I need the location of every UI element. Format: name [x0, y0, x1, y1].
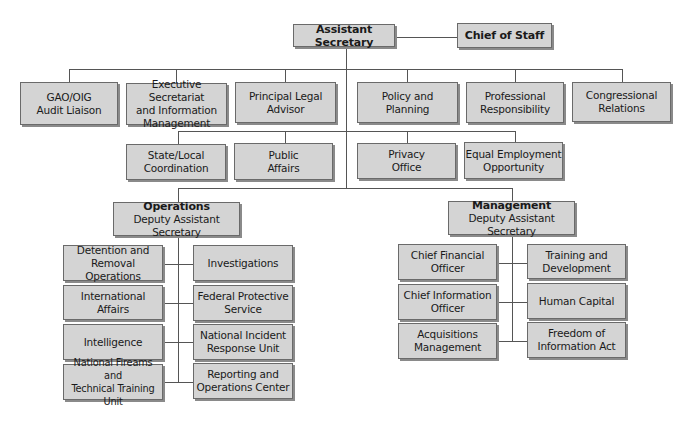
operations-subtitle: Deputy Assistant Secretary	[114, 213, 239, 239]
box-label: Equal Employment Opportunity	[466, 148, 562, 174]
connector-mgmt-spine	[512, 235, 513, 342]
connector-tier1-5	[515, 69, 516, 82]
box-label: Reporting and Operations Center	[196, 368, 289, 394]
chief-of-staff-label: Chief of Staff	[465, 29, 544, 42]
principal-legal-advisor-box: Principal Legal Advisor	[235, 82, 336, 123]
box-label: Professional Responsibility	[480, 90, 550, 116]
box-label: Acquisitions Management	[414, 328, 481, 354]
connector-tier2-1	[178, 131, 179, 144]
management-subtitle: Deputy Assistant Secretary	[449, 212, 574, 238]
assistant-secretary-box: Assistant Secretary	[293, 24, 395, 47]
national-incident-response-unit-box: National Incident Response Unit	[193, 324, 293, 360]
box-label: Intelligence	[84, 336, 143, 349]
connector-ops-row3	[163, 342, 193, 343]
intelligence-box: Intelligence	[63, 324, 163, 360]
box-label: Investigations	[208, 257, 279, 270]
assistant-secretary-label: Assistant Secretary	[294, 23, 394, 49]
box-label: Detention and Removal Operations	[64, 244, 162, 283]
connector-mgmt-row1	[497, 263, 527, 264]
box-label: Principal Legal Advisor	[249, 90, 322, 116]
reporting-operations-center-box: Reporting and Operations Center	[193, 363, 293, 399]
international-affairs-box: International Affairs	[63, 285, 163, 320]
detention-removal-operations-box: Detention and Removal Operations	[63, 245, 163, 281]
box-label: Chief Information Officer	[404, 289, 492, 315]
box-label: Human Capital	[539, 295, 614, 308]
training-development-box: Training and Development	[527, 244, 626, 279]
box-label: National Incident Response Unit	[200, 329, 286, 355]
box-label: Chief Financial Officer	[411, 249, 484, 275]
box-label: International Affairs	[64, 290, 162, 316]
equal-employment-opportunity-box: Equal Employment Opportunity	[464, 142, 563, 179]
connector-tier2-2	[285, 131, 286, 143]
congressional-relations-box: Congressional Relations	[572, 82, 671, 122]
public-affairs-box: Public Affairs	[234, 143, 333, 180]
executive-secretariat-box: Executive Secretariat and Information Ma…	[126, 83, 227, 125]
org-chart: Assistant Secretary Chief of Staff GAO/O…	[0, 0, 697, 424]
chief-of-staff-box: Chief of Staff	[457, 23, 552, 48]
connector-mgmt-row2	[497, 302, 527, 303]
human-capital-box: Human Capital	[527, 283, 626, 319]
chief-financial-officer-box: Chief Financial Officer	[398, 244, 497, 280]
connector-tier1-4	[407, 69, 408, 82]
connector-mgmt-row3	[497, 341, 527, 342]
box-label: GAO/OIG Audit Liaison	[37, 91, 102, 117]
state-local-coordination-box: State/Local Coordination	[126, 144, 226, 180]
connector-top-staff	[395, 37, 457, 38]
management-title: Management	[472, 199, 551, 212]
box-label: Policy and Planning	[382, 90, 433, 116]
box-label: Congressional Relations	[586, 89, 657, 115]
operations-title: Operations	[143, 200, 210, 213]
connector-ops-spine	[178, 236, 179, 383]
box-label: Privacy Office	[388, 148, 425, 174]
connector-tier1-6	[622, 69, 623, 82]
professional-responsibility-box: Professional Responsibility	[466, 82, 564, 123]
connector-tier1-3	[285, 69, 286, 82]
investigations-box: Investigations	[193, 245, 293, 281]
freedom-of-information-act-box: Freedom of Information Act	[527, 322, 626, 358]
acquisitions-management-box: Acquisitions Management	[398, 323, 497, 359]
connector-tier1-bar	[69, 69, 622, 70]
management-deputy-box: Management Deputy Assistant Secretary	[448, 201, 575, 235]
national-firearms-training-box: National Fireams and Technical Training …	[63, 364, 163, 400]
privacy-office-box: Privacy Office	[357, 143, 456, 179]
policy-and-planning-box: Policy and Planning	[357, 82, 458, 123]
connector-deputy-bar	[178, 188, 513, 189]
box-label: Public Affairs	[268, 149, 300, 175]
box-label: Executive Secretariat and Information Ma…	[127, 78, 226, 130]
connector-ops-row1	[163, 264, 193, 265]
chief-information-officer-box: Chief Information Officer	[398, 284, 497, 320]
gao-oig-audit-liaison-box: GAO/OIG Audit Liaison	[20, 82, 118, 125]
box-label: Training and Development	[542, 249, 611, 275]
connector-tier2-3	[407, 131, 408, 143]
connector-tier1-1	[69, 69, 70, 82]
connector-ops-row4	[163, 382, 193, 383]
federal-protective-service-box: Federal Protective Service	[193, 285, 293, 321]
box-label: State/Local Coordination	[144, 149, 209, 175]
box-label: Freedom of Information Act	[537, 327, 615, 353]
operations-deputy-box: Operations Deputy Assistant Secretary	[113, 202, 240, 236]
connector-ops-row2	[163, 303, 193, 304]
box-label: Federal Protective Service	[197, 290, 288, 316]
box-label: National Fireams and Technical Training …	[64, 356, 162, 408]
connector-tier2-bar	[178, 131, 515, 132]
